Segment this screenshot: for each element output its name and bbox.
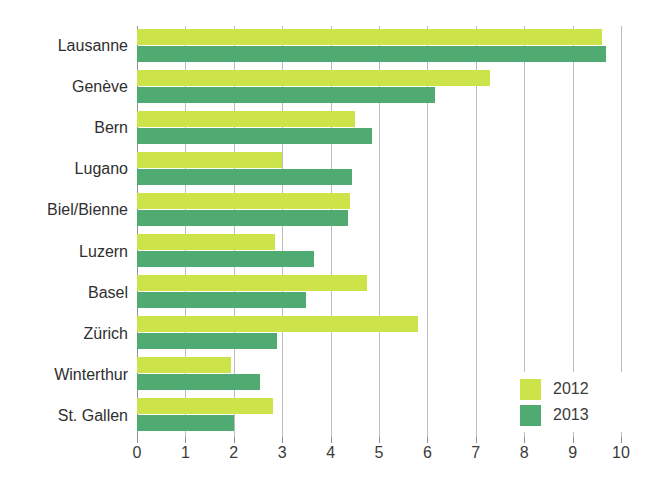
category-label: Lugano <box>8 159 128 179</box>
x-tick-label-8: 8 <box>520 444 529 462</box>
bar-2013 <box>137 251 314 267</box>
x-tick-label-10: 10 <box>612 444 630 462</box>
bar-2013 <box>137 128 372 144</box>
tick-mark-3 <box>282 437 283 443</box>
x-tick-label-0: 0 <box>133 444 142 462</box>
bar-chart: LausanneGenèveBernLuganoBiel/BienneLuzer… <box>0 0 654 488</box>
bar-group: Luzern <box>137 232 621 273</box>
bar-group: Lausanne <box>137 26 621 67</box>
bar-2012 <box>137 357 231 373</box>
bar-2013 <box>137 333 277 349</box>
tick-mark-10 <box>621 437 622 443</box>
bar-2013 <box>137 415 234 431</box>
bar-2012 <box>137 316 418 332</box>
tick-mark-1 <box>185 437 186 443</box>
category-label: St. Gallen <box>8 406 128 426</box>
category-label: Lausanne <box>8 36 128 56</box>
bar-2013 <box>137 169 352 185</box>
bar-group: Zürich <box>137 314 621 355</box>
x-tick-label-2: 2 <box>229 444 238 462</box>
x-tick-label-7: 7 <box>471 444 480 462</box>
category-label: Luzern <box>8 242 128 262</box>
legend-label-2012: 2012 <box>553 381 589 397</box>
x-tick-label-3: 3 <box>278 444 287 462</box>
bar-2013 <box>137 292 306 308</box>
category-label: Biel/Bienne <box>8 200 128 220</box>
bar-2012 <box>137 29 602 45</box>
bar-2013 <box>137 210 348 226</box>
tick-mark-7 <box>476 437 477 443</box>
tick-mark-4 <box>331 437 332 443</box>
chart-legend: 2012 2013 <box>516 372 628 432</box>
bar-2012 <box>137 193 350 209</box>
legend-entry-2012: 2012 <box>520 376 626 402</box>
bar-2012 <box>137 234 275 250</box>
bar-2012 <box>137 398 273 414</box>
bar-2013 <box>137 46 606 62</box>
bar-group: Basel <box>137 273 621 314</box>
category-label: Basel <box>8 283 128 303</box>
category-label: Zürich <box>8 324 128 344</box>
legend-swatch-2013 <box>520 405 541 426</box>
legend-label-2013: 2013 <box>553 407 589 423</box>
x-tick-label-9: 9 <box>568 444 577 462</box>
bar-2013 <box>137 87 435 103</box>
bar-2012 <box>137 275 367 291</box>
tick-mark-5 <box>379 437 380 443</box>
x-tick-label-1: 1 <box>181 444 190 462</box>
legend-entry-2013: 2013 <box>520 402 626 428</box>
category-label: Bern <box>8 118 128 138</box>
bar-2012 <box>137 70 490 86</box>
bar-group: Bern <box>137 108 621 149</box>
category-label: Genève <box>8 77 128 97</box>
bar-group: Biel/Bienne <box>137 190 621 231</box>
x-tick-label-5: 5 <box>375 444 384 462</box>
bar-2012 <box>137 111 355 127</box>
x-tick-label-4: 4 <box>326 444 335 462</box>
x-tick-label-6: 6 <box>423 444 432 462</box>
category-label: Winterthur <box>8 365 128 385</box>
tick-mark-8 <box>524 437 525 443</box>
bar-2012 <box>137 152 282 168</box>
bar-group: Lugano <box>137 149 621 190</box>
tick-mark-0 <box>137 437 138 443</box>
bar-group: Genève <box>137 67 621 108</box>
tick-mark-6 <box>427 437 428 443</box>
legend-swatch-2012 <box>520 379 541 400</box>
tick-mark-9 <box>573 437 574 443</box>
tick-mark-2 <box>234 437 235 443</box>
bar-2013 <box>137 374 260 390</box>
